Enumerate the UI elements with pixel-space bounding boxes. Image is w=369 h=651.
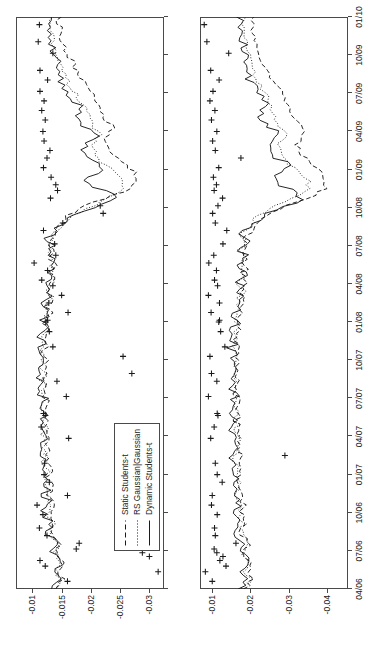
bottom-panel-x-tickmark xyxy=(348,550,352,551)
bottom-panel-x-tick-label: 07/06 xyxy=(354,540,364,561)
top-panel-x-tickmark xyxy=(164,588,168,589)
bottom-panel-x-tick-label: 10/06 xyxy=(354,502,364,523)
bottom-panel-x-tick-label: 01/09 xyxy=(354,159,364,180)
top-panel-x-tickmark xyxy=(164,435,168,436)
top-panel-y-tick-label: -0.01 xyxy=(27,595,37,635)
legend: Static Students-tRS Gaussian|GaussianDyn… xyxy=(114,423,160,551)
bottom-panel-x-tick-label: 01/08 xyxy=(354,311,364,332)
bottom-panel-x-tickmark xyxy=(348,359,352,360)
bottom-panel-x-tickmark xyxy=(348,92,352,93)
bottom-panel-x-tickmark xyxy=(348,435,352,436)
bottom-panel-x-tick-label: 07/08 xyxy=(354,235,364,256)
legend-item: RS Gaussian|Gaussian xyxy=(131,429,143,546)
top-panel-x-tickmark xyxy=(164,92,168,93)
bottom-panel-x-tickmark xyxy=(348,169,352,170)
bottom-panel-x-tick-label: 07/07 xyxy=(354,388,364,409)
legend-key-dotted xyxy=(137,520,138,546)
top-panel-x-tickmark xyxy=(164,54,168,55)
top-panel-x-tickmark xyxy=(164,474,168,475)
top-panel-y-tickmark xyxy=(62,589,63,593)
bottom-panel-x-tickmark xyxy=(348,474,352,475)
bottom-panel-plot xyxy=(200,17,348,589)
bottom-panel-x-tick-label: 10/08 xyxy=(354,197,364,218)
bottom-panel-x-tick-label: 04/09 xyxy=(354,121,364,142)
bottom-panel-x-tick-label: 01/10 xyxy=(354,6,364,27)
legend-key-dashed xyxy=(125,520,126,546)
bottom-panel-x-tickmark xyxy=(348,321,352,322)
bottom-panel-x-tickmark xyxy=(348,245,352,246)
legend-item: Static Students-t xyxy=(119,429,131,546)
bottom-panel-x-tickmark xyxy=(348,207,352,208)
legend-label: Static Students-t xyxy=(120,454,131,515)
legend-item: Dynamic Students-t xyxy=(143,429,155,546)
bottom-panel xyxy=(200,17,348,589)
bottom-panel-y-tick-label: -0.03 xyxy=(284,595,294,635)
bottom-panel-x-tickmark xyxy=(348,283,352,284)
chart-screenshot: -0.01-0.015-0.02-0.025-0.03 Static Stude… xyxy=(0,0,369,651)
top-panel-x-tickmark xyxy=(164,245,168,246)
top-panel-y-tickmark xyxy=(120,589,121,593)
bottom-panel-x-tick-label: 04/08 xyxy=(354,273,364,294)
top-panel-y-tick-label: -0.03 xyxy=(144,595,154,635)
bottom-panel-x-tickmark xyxy=(348,16,352,17)
top-panel-x-tickmark xyxy=(164,169,168,170)
bottom-panel-x-tickmark xyxy=(348,397,352,398)
bottom-panel-x-tick-label: 04/06 xyxy=(354,578,364,599)
top-panel-x-tickmark xyxy=(164,16,168,17)
top-panel-y-tickmark xyxy=(91,589,92,593)
bottom-panel-y-tickmark xyxy=(327,589,328,593)
top-panel-y-tick-label: -0.025 xyxy=(115,595,125,635)
top-panel-y-tick-label: -0.02 xyxy=(86,595,96,635)
top-panel-y-tick-label: -0.015 xyxy=(57,595,67,635)
bottom-panel-x-tick-label: 10/09 xyxy=(354,45,364,66)
bottom-panel-x-tickmark xyxy=(348,512,352,513)
top-panel-y-tickmark xyxy=(149,589,150,593)
figure-canvas: -0.01-0.015-0.02-0.025-0.03 Static Stude… xyxy=(0,0,369,651)
legend-key-solid xyxy=(149,520,150,546)
bottom-panel-x-tick-label: 10/07 xyxy=(354,350,364,371)
top-panel-x-tickmark xyxy=(164,207,168,208)
legend-label: RS Gaussian|Gaussian xyxy=(132,429,143,515)
top-panel-x-tickmark xyxy=(164,130,168,131)
bottom-panel-y-tick-label: -0.02 xyxy=(245,595,255,635)
top-panel-x-tickmark xyxy=(164,359,168,360)
bottom-panel-y-tick-label: -0.04 xyxy=(322,595,332,635)
top-panel-y-tickmark xyxy=(32,589,33,593)
top-panel-x-tickmark xyxy=(164,512,168,513)
top-panel-x-tickmark xyxy=(164,283,168,284)
bottom-panel-y-tickmark xyxy=(212,589,213,593)
top-panel-x-tickmark xyxy=(164,397,168,398)
bottom-panel-y-tickmark xyxy=(289,589,290,593)
bottom-panel-x-tick-label: 01/07 xyxy=(354,464,364,485)
bottom-panel-x-tickmark xyxy=(348,130,352,131)
bottom-panel-x-tickmark xyxy=(348,588,352,589)
top-panel-x-tickmark xyxy=(164,321,168,322)
bottom-panel-x-tick-label: 04/07 xyxy=(354,426,364,447)
top-panel-x-tickmark xyxy=(164,550,168,551)
bottom-panel-x-tickmark xyxy=(348,54,352,55)
bottom-panel-x-tick-label: 07/09 xyxy=(354,83,364,104)
legend-label: Dynamic Students-t xyxy=(144,443,155,515)
bottom-panel-y-tickmark xyxy=(250,589,251,593)
bottom-panel-y-tick-label: -0.01 xyxy=(207,595,217,635)
